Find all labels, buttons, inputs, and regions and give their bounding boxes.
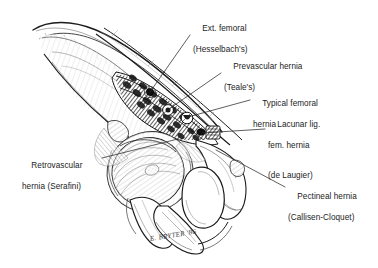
label-pectineal-hernia: Pectineal hernia (Callisen-Cloquet) [288,182,357,243]
label-ext-femoral-line1: Ext. femoral [202,24,246,33]
label-lacunar-line1: Lacunar lig. [277,120,320,129]
anatomical-figure: Ext. femoral (Hesselbach's) Prevascular … [0,0,378,268]
marker-prevascular [163,105,174,116]
label-retrovascular-line1: Retrovascular [31,161,82,170]
label-typical-line1: Typical femoral [262,99,318,108]
leader-ext-femoral [150,35,190,92]
label-lacunar-line3: (de Laugier) [268,171,320,181]
obturator-foramen [182,167,224,228]
marker-typical-femoral [181,112,193,124]
label-retrovascular-hernia: Retrovascular hernia (Serafini) [22,151,82,212]
label-lacunar-line2: fem. hernia [268,141,320,151]
label-retrovascular-line2: hernia (Serafini) [22,182,82,192]
label-prevascular-line1: Prevascular hernia [233,62,302,71]
marker-lacunar [197,129,205,135]
label-pectineal-line2: (Callisen-Cloquet) [288,213,357,223]
label-pectineal-line1: Pectineal hernia [297,192,357,201]
